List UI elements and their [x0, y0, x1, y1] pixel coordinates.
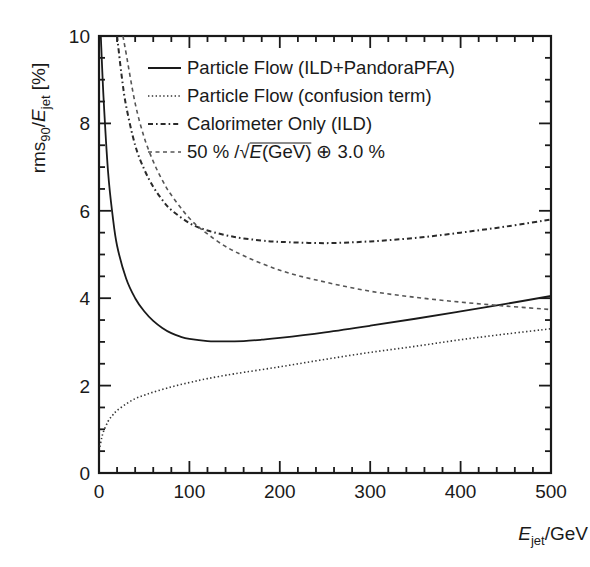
legend-item-calorimeter-only: Calorimeter Only (ILD) — [148, 113, 372, 134]
legend: Particle Flow (ILD+PandoraPFA) Particle … — [148, 57, 455, 162]
x-tick-label: 100 — [174, 481, 206, 502]
x-axis-title: Ejet/GeV — [518, 523, 588, 548]
y-tick-label: 4 — [79, 288, 90, 309]
series-line-solid — [101, 36, 551, 341]
legend-label: Calorimeter Only (ILD) — [187, 113, 372, 134]
y-tick-label: 0 — [79, 463, 90, 484]
axis-titles: Ejet/GeV rms90/Ejet [%] — [28, 63, 588, 548]
y-tick-label: 2 — [79, 376, 90, 397]
y-tick-label: 6 — [79, 201, 90, 222]
x-tick-label: 300 — [354, 481, 386, 502]
x-tick-label: 0 — [94, 481, 105, 502]
legend-item-particle-flow-ild: Particle Flow (ILD+PandoraPFA) — [148, 57, 455, 78]
x-tick-label: 200 — [264, 481, 296, 502]
y-tick-label: 10 — [69, 26, 90, 47]
series-line-dotted — [100, 329, 551, 447]
y-axis-title: rms90/Ejet [%] — [28, 63, 53, 174]
y-tick-label: 8 — [79, 113, 90, 134]
legend-item-confusion-term: Particle Flow (confusion term) — [148, 85, 432, 106]
chart: 01002003004005000246810 Particle Flow (I… — [0, 0, 590, 567]
legend-label: Particle Flow (confusion term) — [187, 85, 432, 106]
legend-label: Particle Flow (ILD+PandoraPFA) — [187, 57, 455, 78]
legend-label: 50 % /√E(GeV) ⊕ 3.0 % — [187, 141, 385, 162]
x-tick-label: 500 — [535, 481, 567, 502]
x-tick-label: 400 — [445, 481, 477, 502]
legend-item-stochastic-formula: 50 % /√E(GeV) ⊕ 3.0 % — [148, 141, 385, 162]
